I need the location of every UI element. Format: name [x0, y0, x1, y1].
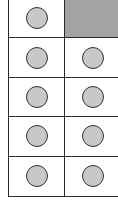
frame-cell	[9, 117, 65, 156]
frame-cell	[65, 78, 118, 117]
counter-circle	[82, 86, 104, 108]
counter-circle	[26, 47, 48, 69]
counter-circle	[26, 86, 48, 108]
counter-circle	[26, 7, 48, 29]
counter-circle	[82, 125, 104, 147]
counter-circle	[82, 47, 104, 69]
frame-cell	[65, 157, 118, 196]
frame-cell	[9, 38, 65, 77]
counter-circle	[26, 165, 48, 187]
frame-cell	[9, 157, 65, 196]
frame-cell	[65, 38, 118, 77]
frame-cell	[9, 78, 65, 117]
ten-frame	[8, 0, 118, 197]
frame-cell-empty	[65, 0, 118, 38]
frame-cell	[9, 0, 65, 38]
counter-circle	[82, 165, 104, 187]
frame-cell	[65, 117, 118, 156]
counter-circle	[26, 125, 48, 147]
